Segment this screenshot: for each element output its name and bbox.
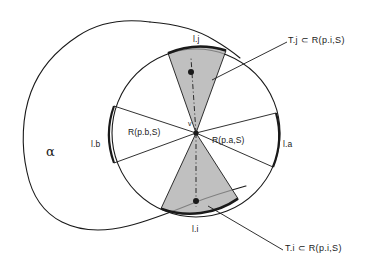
site-dot-top (188, 69, 194, 75)
label-arc-lb: l.b (91, 139, 100, 149)
label-region-right: R(p.a,S) (212, 135, 244, 145)
caption-bottom-ti: T.i ⊂ R(p.i,S) (285, 243, 342, 253)
label-alpha: α (46, 144, 55, 159)
figure-canvas: α v l.j l.i l.a l.b R(p.a,S) R(p.b,S) T.… (0, 0, 378, 269)
ray-right-upper (196, 113, 276, 133)
label-arc-li: l.i (192, 224, 198, 234)
wedge-bottom-shaded (161, 133, 238, 214)
arc-right-la (273, 113, 279, 167)
leader-line-bottom (208, 206, 283, 250)
leader-line-top (212, 42, 287, 80)
label-vertex-v: v (188, 120, 192, 127)
vertex-dot (193, 130, 198, 135)
label-region-left: R(p.b,S) (128, 127, 160, 137)
site-dot-bottom (193, 198, 199, 204)
label-arc-lj: l.j (193, 34, 199, 44)
wedge-top-shaded (168, 47, 226, 133)
label-arc-la: l.a (283, 139, 292, 149)
caption-top-tj: T.j ⊂ R(p.i,S) (288, 35, 345, 45)
